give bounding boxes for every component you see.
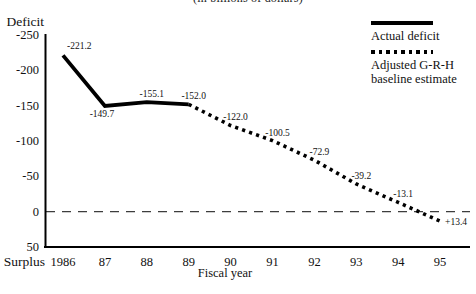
x-tick-label: 92 (308, 255, 321, 269)
x-tick-label: 88 (141, 255, 154, 269)
data-point-label: -100.5 (265, 128, 290, 138)
x-tick-label: 95 (434, 255, 447, 269)
data-point-label: -149.7 (90, 109, 115, 119)
y-tick-label: 50 (27, 240, 40, 254)
data-point-label: -39.2 (351, 171, 371, 181)
data-point-label: -122.0 (223, 112, 248, 122)
x-tick-label: 90 (224, 255, 237, 269)
data-point-label: -152.0 (181, 91, 206, 101)
data-point-label: -72.9 (310, 147, 330, 157)
data-point-label: -221.2 (67, 41, 92, 51)
y-tick-label: -150 (16, 99, 39, 113)
data-point-label: -13.1 (393, 189, 413, 199)
x-tick-label: 89 (182, 255, 195, 269)
x-tick-label: 93 (350, 255, 363, 269)
x-tick-label: 91 (266, 255, 279, 269)
y-tick-label: 0 (33, 205, 39, 219)
y-tick-label: -50 (22, 169, 39, 183)
x-tick-label: 94 (392, 255, 405, 269)
actual-deficit-line (63, 55, 189, 106)
data-point-label: +13.4 (445, 217, 467, 227)
y-tick-label: -100 (16, 134, 39, 148)
x-tick-label: 1986 (51, 255, 76, 269)
y-tick-label: -250 (16, 28, 39, 42)
deficit-line-chart: -250-200-150-100-50050198687888990919293… (0, 0, 476, 294)
chart-figure: (in billions of dollars) Deficit Surplus… (0, 0, 476, 294)
x-tick-label: 87 (99, 255, 112, 269)
y-tick-label: -200 (16, 63, 39, 77)
data-point-label: -155.1 (140, 89, 165, 99)
